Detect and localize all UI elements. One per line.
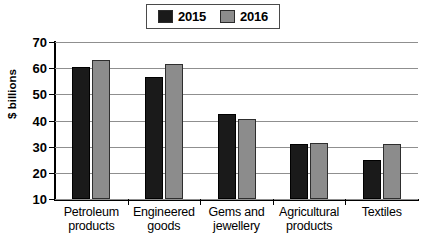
legend-entry-2016: 2016 xyxy=(220,10,268,23)
y-tick-mark xyxy=(49,68,55,69)
category-label-5: Textiles xyxy=(345,205,418,219)
y-tick-label: 50 xyxy=(33,88,47,101)
gridline xyxy=(55,199,418,200)
chart-legend: 2015 2016 xyxy=(146,4,280,29)
bar-2016-5 xyxy=(383,144,401,199)
bar-2016-3 xyxy=(238,119,256,199)
legend-swatch-2015 xyxy=(158,10,173,23)
y-tick-mark xyxy=(49,199,55,200)
category-label-2: Engineered goods xyxy=(128,205,201,233)
bar-chart: 2015 2016 $ billions 10203040506070 Petr… xyxy=(0,0,426,244)
y-tick-label: 40 xyxy=(33,114,47,127)
plot-area: 10203040506070 Petroleum productsEnginee… xyxy=(55,42,418,199)
category-label-4: Agricultural products xyxy=(273,205,346,233)
legend-label-2016: 2016 xyxy=(240,10,268,23)
category-label-3: Gems and jewellery xyxy=(200,205,273,233)
y-tick-mark xyxy=(49,173,55,174)
bar-2016-4 xyxy=(310,143,328,199)
legend-swatch-2016 xyxy=(220,10,235,23)
y-tick-label: 60 xyxy=(33,62,47,75)
category-label-1: Petroleum products xyxy=(55,205,128,233)
bar-2015-2 xyxy=(145,77,163,199)
y-tick-mark xyxy=(49,42,55,43)
bar-2015-5 xyxy=(363,160,381,199)
y-axis-title: $ billions xyxy=(6,54,18,134)
gridline xyxy=(55,42,418,43)
y-tick-mark xyxy=(49,94,55,95)
bar-2015-1 xyxy=(72,67,90,199)
legend-entry-2015: 2015 xyxy=(158,10,206,23)
y-tick-mark xyxy=(49,147,55,148)
legend-label-2015: 2015 xyxy=(178,10,206,23)
bar-2015-3 xyxy=(218,114,236,199)
bar-2016-1 xyxy=(92,60,110,199)
bar-2015-4 xyxy=(290,144,308,199)
y-tick-mark xyxy=(49,121,55,122)
y-tick-label: 70 xyxy=(33,36,47,49)
bar-2016-2 xyxy=(165,64,183,199)
y-tick-label: 30 xyxy=(33,140,47,153)
y-tick-label: 20 xyxy=(33,166,47,179)
y-tick-label: 10 xyxy=(33,193,47,206)
